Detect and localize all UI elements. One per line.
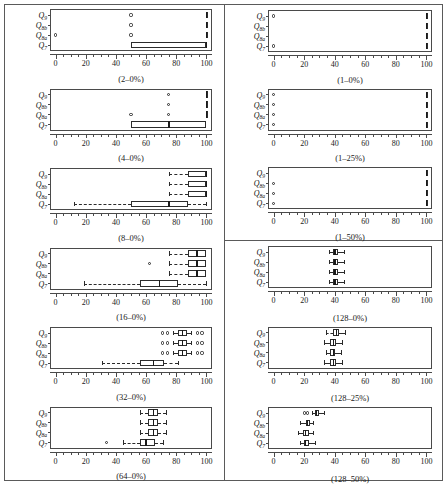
boxplot-upper-cap	[206, 281, 207, 286]
x-axis-minor-tick	[312, 213, 313, 215]
boxplot-lower-cap	[169, 271, 170, 276]
x-axis-minor-tick	[411, 453, 412, 455]
boxplot-median	[426, 102, 427, 108]
x-axis-major-tick	[396, 373, 397, 377]
y-axis-label-q8a: Q8a	[254, 268, 265, 277]
x-axis-minor-tick	[169, 373, 170, 375]
x-axis-minor-tick	[101, 214, 102, 216]
x-axis-tick-label: 20	[300, 217, 308, 226]
x-axis-minor-tick	[199, 214, 200, 216]
boxplot-lower-cap	[300, 441, 301, 446]
plot-area	[268, 246, 432, 288]
boxplot-outlier	[272, 123, 275, 126]
x-axis-minor-tick	[78, 214, 79, 216]
x-axis-major-tick	[86, 55, 87, 59]
plot-area	[50, 407, 212, 449]
x-axis-major-tick	[335, 453, 336, 457]
x-axis-tick-label: 20	[82, 218, 90, 227]
boxplot-outlier	[196, 351, 199, 354]
x-axis-minor-tick	[93, 294, 94, 296]
boxplot-lower-cap	[74, 202, 75, 207]
boxplot-outlier	[148, 262, 151, 265]
x-axis-minor-tick	[327, 453, 328, 455]
boxplot-median	[333, 349, 334, 355]
x-axis-minor-tick	[191, 373, 192, 375]
y-axis-label-q7: Q7	[256, 199, 265, 208]
x-axis-minor-tick	[342, 453, 343, 455]
x-axis-tick-label: 60	[361, 60, 369, 69]
y-axis-tick	[266, 272, 269, 273]
x-axis-minor-tick	[381, 453, 382, 455]
y-axis-tick	[266, 124, 269, 125]
x-axis-minor-tick	[289, 292, 290, 294]
y-axis-label-q8b: Q8b	[36, 100, 47, 109]
y-axis-tick	[266, 114, 269, 115]
x-axis-minor-tick	[154, 294, 155, 296]
x-axis-major-tick	[335, 373, 336, 377]
y-axis-label-q8b: Q8b	[36, 418, 47, 427]
boxplot-lower-whisker	[169, 194, 188, 195]
x-axis-tick-label: 0	[54, 218, 58, 227]
boxplot-outlier	[272, 44, 275, 47]
boxplot-median	[206, 91, 207, 97]
boxplot-median	[196, 250, 197, 256]
x-axis-minor-tick	[411, 135, 412, 137]
x-axis-minor-tick	[184, 373, 185, 375]
x-axis-minor-tick	[123, 453, 124, 455]
x-axis-minor-tick	[154, 373, 155, 375]
y-axis-label-q8a: Q8a	[36, 269, 47, 278]
boxplot-outlier	[272, 202, 275, 205]
x-axis-minor-tick	[191, 55, 192, 57]
x-axis-minor-tick	[154, 453, 155, 455]
x-axis-tick-label: 80	[392, 377, 400, 386]
boxplot-panel: Q9Q8bQ8aQ7020406080100(8–0%)	[0, 163, 224, 243]
y-axis-tick	[48, 432, 51, 433]
x-axis-minor-tick	[403, 135, 404, 137]
boxplot-lower-cap	[140, 410, 141, 415]
x-axis-major-tick	[86, 214, 87, 218]
panel-caption: (128–50%)	[268, 474, 432, 484]
x-axis-minor-tick	[281, 213, 282, 215]
y-axis-label-q8a: Q8a	[36, 349, 47, 358]
x-axis-tick-label: 0	[272, 217, 276, 226]
y-axis-label-q8a: Q8a	[254, 110, 265, 119]
boxplot-median	[206, 22, 207, 28]
x-axis-minor-tick	[139, 373, 140, 375]
boxplot-outlier	[166, 341, 169, 344]
x-axis-major-tick	[146, 453, 147, 457]
boxplot-outlier	[166, 351, 169, 354]
x-axis-minor-tick	[419, 292, 420, 294]
y-axis-tick	[48, 45, 51, 46]
x-axis-major-tick	[274, 373, 275, 377]
x-axis-minor-tick	[403, 213, 404, 215]
x-axis-tick-label: 0	[272, 139, 276, 148]
x-axis-minor-tick	[139, 453, 140, 455]
y-axis-label-q9: Q9	[38, 11, 47, 20]
boxplot-median	[426, 33, 427, 39]
x-axis-major-tick	[365, 373, 366, 377]
y-axis-label-q9: Q9	[256, 409, 265, 418]
boxplot-lower-cap	[169, 172, 170, 177]
boxplot-outlier	[161, 351, 164, 354]
boxplot-median	[334, 249, 335, 255]
x-axis-minor-tick	[319, 292, 320, 294]
x-axis-minor-tick	[342, 213, 343, 215]
boxplot-upper-cap	[191, 351, 192, 356]
x-axis-major-tick	[426, 292, 427, 296]
boxplot-median	[334, 269, 335, 275]
x-axis-minor-tick	[419, 56, 420, 58]
y-axis-tick	[48, 124, 51, 125]
y-axis-tick	[48, 25, 51, 26]
x-axis-tick-label: 60	[142, 377, 150, 386]
x-axis-tick-label: 0	[272, 377, 276, 386]
x-axis-tick-label: 0	[272, 60, 276, 69]
boxplot-outlier	[306, 411, 309, 414]
boxplot-lower-whisker	[84, 284, 141, 285]
y-axis-tick	[266, 332, 269, 333]
x-axis-minor-tick	[411, 373, 412, 375]
x-axis-minor-tick	[161, 214, 162, 216]
boxplot-lower-whisker	[169, 264, 188, 265]
boxplot-lower-cap	[173, 341, 174, 346]
x-axis-tick-label: 100	[200, 377, 212, 386]
x-axis-tick-label: 0	[54, 59, 58, 68]
